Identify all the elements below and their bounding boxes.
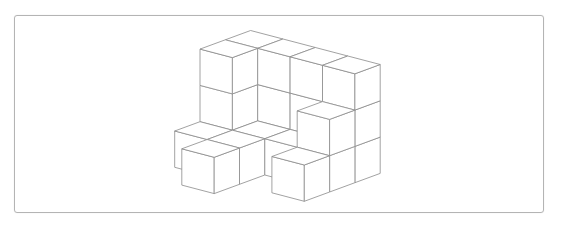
cube-faces bbox=[175, 31, 381, 202]
cube-stack-figure bbox=[0, 0, 563, 228]
